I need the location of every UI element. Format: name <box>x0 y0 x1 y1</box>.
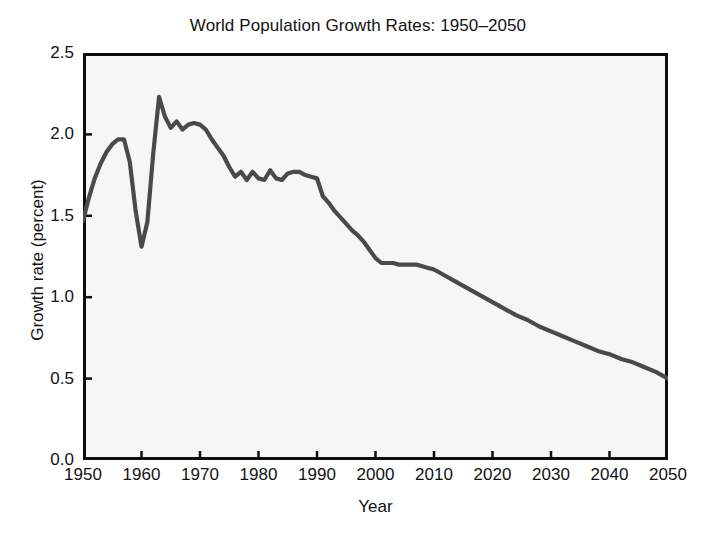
x-tick-label: 2050 <box>633 466 703 483</box>
y-axis-title: Growth rate (percent) <box>28 110 48 410</box>
plot-canvas <box>83 53 668 460</box>
tick-marks-group <box>83 134 610 460</box>
y-tick-label: 2.5 <box>8 44 74 61</box>
data-series-group <box>83 97 668 379</box>
chart-title: World Population Growth Rates: 1950–2050 <box>0 16 716 36</box>
chart-figure: World Population Growth Rates: 1950–2050… <box>0 0 716 540</box>
x-axis-tick-labels: 1950196019701980199020002010202020302040… <box>0 466 716 490</box>
data-line <box>83 97 668 379</box>
x-axis-title: Year <box>83 497 668 517</box>
